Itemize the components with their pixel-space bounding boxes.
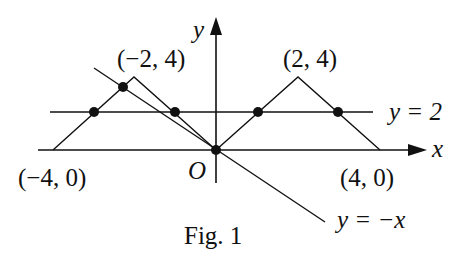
intersection-dot (170, 107, 180, 117)
right-root-label: (4, 0) (340, 164, 394, 192)
y-axis-arrow-icon (210, 17, 222, 35)
intersection-dot (333, 107, 343, 117)
origin-label: O (188, 157, 206, 184)
intersection-dot (253, 107, 263, 117)
left-peak-label: (−2, 4) (117, 45, 185, 73)
function-graph-figure: y x O (−2, 4) (2, 4) (−4, 0) (4, 0) y = … (0, 0, 470, 269)
tent-graph-left (53, 77, 216, 150)
y-axis-label: y (190, 16, 205, 43)
intersection-dot (118, 82, 128, 92)
y-equals-2-label: y = 2 (386, 98, 442, 125)
intersection-dot (89, 107, 99, 117)
right-peak-label: (2, 4) (283, 45, 337, 73)
y-equals-minus-x-label: y = −x (334, 206, 405, 233)
x-axis-label: x (431, 135, 443, 162)
origin-dot (211, 145, 221, 155)
x-axis-arrow-icon (408, 144, 427, 156)
figure-caption: Fig. 1 (184, 222, 242, 249)
left-root-label: (−4, 0) (18, 164, 86, 192)
tent-graph-right (216, 77, 380, 150)
